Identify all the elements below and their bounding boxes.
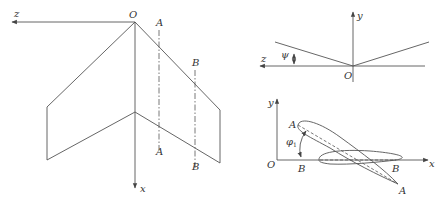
label-z-left: z [13, 8, 20, 19]
label-b-trailing: B [391, 163, 399, 174]
label-x-section: x [429, 158, 435, 169]
wing-outline [47, 22, 220, 163]
label-origin-front: O [344, 70, 352, 81]
label-x-left: x [140, 183, 146, 194]
front-view-dihedral: y z O ψ [260, 10, 429, 82]
phi-angle-arrow [300, 131, 306, 157]
label-b-bottom: B [191, 161, 199, 172]
label-a-bottom: A [155, 146, 163, 157]
label-b-top: B [191, 57, 199, 68]
label-origin-left: O [129, 9, 137, 20]
label-a-top: A [155, 17, 163, 28]
wing-planform: z O x A A B B [12, 8, 220, 194]
airfoil-sections: y x O A A B B φ 1 [267, 97, 435, 196]
chord-line-a [298, 125, 398, 184]
label-psi: ψ [281, 49, 289, 60]
right-wing-dihedral [353, 42, 429, 66]
label-y-front: y [356, 10, 363, 21]
label-y-section: y [267, 97, 274, 108]
label-phi: φ [286, 136, 293, 147]
label-a-trailing: A [398, 185, 406, 196]
label-phi-subscript: 1 [293, 141, 297, 148]
diagram-canvas: z O x A A B B y z O ψ y x O A A B B [0, 0, 437, 202]
label-b-leading: B [297, 163, 305, 174]
label-z-front: z [260, 53, 267, 64]
label-origin-section: O [267, 159, 275, 170]
label-a-leading: A [288, 119, 296, 130]
